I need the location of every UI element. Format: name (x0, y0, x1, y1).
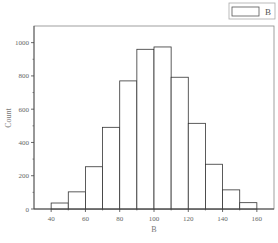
histogram-bar (171, 77, 188, 209)
histogram-bar (154, 47, 171, 209)
legend-swatch (232, 7, 259, 16)
x-tick-label: 120 (183, 215, 194, 223)
histogram-bar (103, 127, 120, 209)
legend-label: B (265, 7, 271, 17)
y-tick-label: 0 (26, 206, 30, 214)
x-axis: 406080100120140160 (34, 209, 274, 223)
y-axis: 02004006008001000 (15, 26, 34, 214)
y-tick-label: 1000 (15, 39, 30, 47)
histogram-bar (240, 203, 257, 209)
histogram-bar (120, 81, 137, 209)
legend: B (229, 3, 275, 19)
x-tick-label: 100 (149, 215, 160, 223)
histogram-chart: B 02004006008001000 406080100120140160 C… (0, 0, 278, 243)
y-tick-label: 200 (19, 172, 30, 180)
x-tick-label: 80 (116, 215, 124, 223)
x-tick-label: 40 (48, 215, 56, 223)
histogram-bar (223, 190, 240, 209)
histogram-bar (188, 123, 205, 209)
y-tick-label: 400 (19, 139, 30, 147)
histogram-bar (85, 167, 102, 209)
y-tick-label: 800 (19, 72, 30, 80)
x-axis-label: B (151, 225, 156, 234)
x-tick-label: 160 (252, 215, 263, 223)
x-tick-label: 60 (82, 215, 90, 223)
histogram-bar (68, 192, 85, 209)
histogram-bar (51, 203, 68, 209)
histogram-bar (205, 164, 222, 209)
x-tick-label: 140 (217, 215, 228, 223)
y-tick-label: 600 (19, 106, 30, 114)
histogram-bar (137, 49, 154, 209)
y-axis-label: Count (4, 107, 13, 127)
